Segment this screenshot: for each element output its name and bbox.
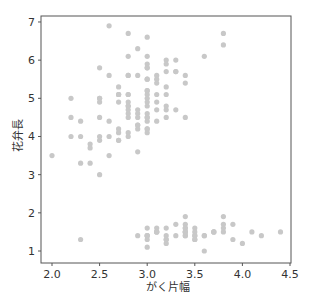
- data-point: [164, 84, 169, 89]
- data-point: [164, 226, 169, 231]
- data-point: [126, 115, 131, 120]
- y-tick-label: 6: [28, 54, 35, 67]
- data-point: [116, 84, 121, 89]
- y-tick-label: 1: [28, 245, 35, 258]
- data-point: [173, 58, 178, 63]
- data-point: [173, 222, 178, 227]
- data-point: [278, 229, 283, 234]
- data-point: [145, 233, 150, 238]
- x-axis-ticks: 2.02.53.03.54.04.5: [43, 263, 299, 281]
- data-point: [192, 237, 197, 242]
- data-point: [192, 226, 197, 231]
- data-point: [183, 214, 188, 219]
- data-point: [97, 134, 102, 139]
- data-point: [107, 153, 112, 158]
- x-axis-label: がく片幅: [146, 280, 190, 294]
- data-point: [68, 134, 73, 139]
- data-point: [145, 54, 150, 59]
- data-point: [154, 107, 159, 112]
- data-point: [221, 42, 226, 47]
- data-points: [49, 23, 283, 253]
- data-point: [230, 237, 235, 242]
- data-point: [116, 100, 121, 105]
- data-point: [107, 119, 112, 124]
- data-point: [97, 65, 102, 70]
- data-point: [78, 119, 83, 124]
- data-point: [230, 222, 235, 227]
- data-point: [211, 229, 216, 234]
- data-point: [154, 92, 159, 97]
- x-tick-label: 4.5: [281, 268, 299, 281]
- data-point: [240, 241, 245, 246]
- scatter-chart: 2.02.53.03.54.04.5 1234567 がく片幅 花弁長: [0, 0, 315, 304]
- y-tick-label: 7: [28, 16, 35, 29]
- data-point: [135, 233, 140, 238]
- x-tick-label: 4.0: [234, 268, 252, 281]
- y-tick-label: 3: [28, 169, 35, 182]
- data-point: [154, 100, 159, 105]
- data-point: [116, 138, 121, 143]
- data-point: [78, 134, 83, 139]
- data-point: [183, 81, 188, 86]
- y-tick-label: 5: [28, 92, 35, 105]
- data-point: [173, 107, 178, 112]
- data-point: [183, 115, 188, 120]
- data-point: [183, 229, 188, 234]
- data-point: [154, 229, 159, 234]
- data-point: [221, 214, 226, 219]
- data-point: [135, 122, 140, 127]
- x-tick-label: 3.0: [138, 268, 156, 281]
- data-point: [259, 233, 264, 238]
- data-point: [126, 103, 131, 108]
- data-point: [135, 46, 140, 51]
- data-point: [145, 126, 150, 131]
- data-point: [202, 233, 207, 238]
- data-point: [97, 96, 102, 101]
- data-point: [145, 245, 150, 250]
- y-tick-label: 2: [28, 207, 35, 220]
- data-point: [126, 31, 131, 36]
- data-point: [135, 107, 140, 112]
- data-point: [145, 77, 150, 82]
- data-point: [154, 81, 159, 86]
- x-tick-label: 3.5: [186, 268, 204, 281]
- data-point: [164, 61, 169, 66]
- data-point: [202, 54, 207, 59]
- data-point: [107, 73, 112, 78]
- data-point: [126, 54, 131, 59]
- data-point: [173, 233, 178, 238]
- data-point: [164, 69, 169, 74]
- data-point: [164, 92, 169, 97]
- data-point: [145, 92, 150, 97]
- y-axis-label: 花弁長: [11, 119, 25, 152]
- data-point: [135, 73, 140, 78]
- data-point: [116, 126, 121, 131]
- data-point: [68, 96, 73, 101]
- y-tick-label: 4: [28, 130, 35, 143]
- data-point: [221, 226, 226, 231]
- data-point: [78, 237, 83, 242]
- data-point: [154, 73, 159, 78]
- y-axis-ticks: 1234567: [28, 16, 41, 258]
- data-point: [164, 103, 169, 108]
- x-tick-label: 2.5: [91, 268, 109, 281]
- data-point: [97, 172, 102, 177]
- data-point: [97, 115, 102, 120]
- data-point: [164, 115, 169, 120]
- data-point: [202, 248, 207, 253]
- data-point: [154, 119, 159, 124]
- data-point: [107, 134, 112, 139]
- x-tick-label: 2.0: [43, 268, 61, 281]
- data-point: [88, 145, 93, 150]
- data-point: [173, 69, 178, 74]
- data-point: [145, 35, 150, 40]
- data-point: [135, 149, 140, 154]
- data-point: [68, 115, 73, 120]
- data-point: [164, 233, 169, 238]
- data-point: [249, 229, 254, 234]
- data-point: [126, 73, 131, 78]
- data-point: [135, 115, 140, 120]
- data-point: [126, 130, 131, 135]
- data-point: [78, 161, 83, 166]
- data-point: [145, 65, 150, 70]
